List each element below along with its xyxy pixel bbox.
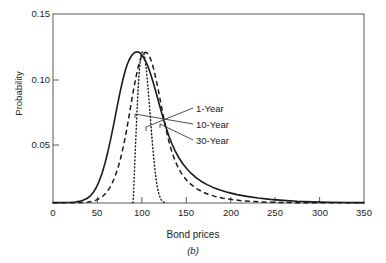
annotation-10-year: 10-Year — [196, 120, 229, 130]
x-tick-label-0: 0 — [43, 208, 63, 218]
figure-caption: (b) — [0, 245, 386, 256]
figure-panel-b: 0.15 0.10 0.05 Probability — [0, 0, 386, 263]
x-tick-label-200: 200 — [219, 208, 243, 218]
annotation-group: 1-Year 10-Year 30-Year — [0, 0, 386, 263]
x-tick-label-300: 300 — [308, 208, 332, 218]
x-tick-label-250: 250 — [263, 208, 287, 218]
x-tick-label-350: 350 — [352, 208, 376, 218]
x-axis-title: Bond prices — [0, 229, 386, 240]
annotation-30-year: 30-Year — [196, 136, 229, 146]
x-tick-label-150: 150 — [174, 208, 198, 218]
x-tick-label-50: 50 — [87, 208, 107, 218]
x-tick-label-100: 100 — [130, 208, 154, 218]
annotation-1-year: 1-Year — [196, 104, 224, 114]
